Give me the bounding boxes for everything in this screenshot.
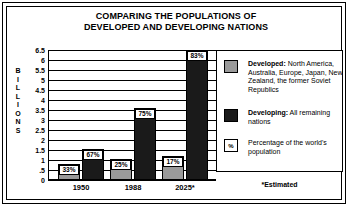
bar-percentage-label: 67% [83,150,103,160]
axis-tick-mark [208,160,216,161]
gridline [48,100,208,101]
y-axis-tick-label: 4 [41,97,45,104]
bar-percentage-label: 33% [59,165,79,175]
y-axis-tick-label: 2.5 [35,127,45,134]
axis-tick-mark [208,80,216,81]
footnote: *Estimated [216,181,343,188]
gridline [48,140,208,141]
axis-tick-mark [208,180,216,181]
bar-developing-2025 [186,50,208,180]
axis-tick-mark [208,140,216,141]
legend-swatch-grey [224,60,238,73]
gridline [48,180,208,181]
gridline [48,60,208,61]
bar-percentage-label: 83% [187,51,207,61]
y-axis-tick-label: 1.5 [35,147,45,154]
x-axis-label-1988: 1988 [107,183,159,192]
gridline [48,150,208,151]
y-axis-tick-label: 1 [41,157,45,164]
gridline [48,70,208,71]
axis-tick-mark [208,130,216,131]
axis-tick-mark [208,110,216,111]
axis-tick-mark [208,70,216,71]
axis-tick-mark [208,150,216,151]
bar-percentage-label: 75% [135,109,155,119]
chart-title-line-1: COMPARING THE POPULATIONS OF [31,11,321,22]
y-axis-tick-label: 4.5 [35,87,45,94]
gridline [48,110,208,111]
chart-title-line-2: DEVELOPED AND DEVELOPING NATIONS [31,22,321,33]
legend-label: Percentage of the world's population [248,139,344,156]
y-axis-tick-labels: 6.565.554.543.532.521.51.50 [21,50,45,180]
y-axis-tick-label: 5.5 [35,67,45,74]
bar-percentage-label: 17% [163,157,183,167]
gridline [48,90,208,91]
axis-tick-mark [208,90,216,91]
legend-swatch-pctbox: % [224,139,238,152]
gridline [48,50,208,51]
y-axis-tick-label: 3 [41,117,45,124]
y-axis-tick-label: 6.5 [35,47,45,54]
legend-label: Developed: North America, Australia, Eur… [248,60,344,94]
chart-title: COMPARING THE POPULATIONS OF DEVELOPED A… [31,11,321,33]
x-axis-label-1950: 1950 [55,183,107,192]
axis-tick-mark [208,120,216,121]
gridline [48,120,208,121]
legend-swatch-black [224,109,238,122]
bar-percentage-label: 25% [111,160,131,170]
y-axis-tick-label: .5 [39,167,45,174]
legend-label: Developing: All remaining nations [248,109,344,126]
plot-area: 33%67%25%75%17%83% [48,50,208,180]
axis-tick-mark [208,50,216,51]
gridline [48,80,208,81]
y-axis-tick-label: 3.5 [35,107,45,114]
y-axis-tick-label: 6 [41,57,45,64]
axis-tick-mark [208,100,216,101]
chart-frame-outer: COMPARING THE POPULATIONS OF DEVELOPED A… [2,2,346,204]
y-axis-tick-label: 5 [41,77,45,84]
axis-tick-mark [208,60,216,61]
chart-legend: Developed: North America, Australia, Eur… [216,50,343,172]
x-axis-label-2025: 2025* [159,183,211,192]
y-axis-tick-label: 0 [41,177,45,184]
y-axis-tick-label: 2 [41,137,45,144]
gridline [48,130,208,131]
axis-tick-mark [208,170,216,171]
